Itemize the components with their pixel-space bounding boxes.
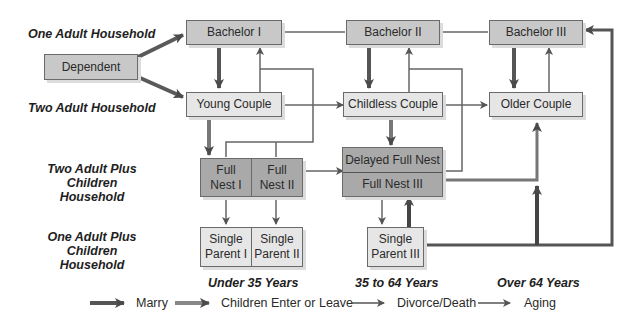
- delayed-full-nest-label: Delayed Full Nest: [345, 153, 440, 168]
- single-parent-3-line2: Parent III: [371, 247, 420, 262]
- single-parent-3-line1: Single: [379, 232, 412, 247]
- node-young-couple: Young Couple: [186, 92, 282, 117]
- node-delayed-full-nest: Delayed Full Nest Full Nest III: [342, 147, 443, 197]
- lane-two-adult-household: Two Adult Household: [28, 101, 156, 115]
- lane-one-adult-children-line2: Children Household: [33, 244, 151, 272]
- full-nest-1-line1: Full: [216, 163, 235, 178]
- single-parent-1-line1: Single: [209, 232, 242, 247]
- lane-one-adult-household: One Adult Household: [28, 27, 155, 41]
- single-parent-2-line1: Single: [260, 232, 293, 247]
- node-full-nest-1: Full Nest I: [200, 158, 252, 197]
- legend-marry: Marry: [136, 296, 168, 310]
- node-dependent: Dependent: [44, 54, 138, 80]
- node-older-couple: Older Couple: [489, 92, 583, 117]
- node-full-nest-2: Full Nest II: [251, 158, 303, 197]
- single-parent-1-line2: Parent I: [205, 247, 247, 262]
- full-nest-1-line2: Nest I: [210, 178, 241, 193]
- full-nest-2-line1: Full: [267, 163, 286, 178]
- node-bachelor-2: Bachelor II: [346, 20, 440, 45]
- node-single-parent-3: Single Parent III: [367, 227, 424, 267]
- full-nest-2-line2: Nest II: [260, 178, 295, 193]
- node-bachelor-3: Bachelor III: [489, 20, 583, 45]
- node-childless-couple: Childless Couple: [343, 92, 443, 117]
- legend-children-enter-leave: Children Enter or Leave: [221, 296, 353, 310]
- delayed-full-nest-divider: [343, 172, 442, 173]
- age-under-35: Under 35 Years: [208, 276, 298, 290]
- single-parent-2-line2: Parent II: [254, 247, 299, 262]
- lane-two-adult-children: Two Adult Plus Children Household: [33, 162, 151, 204]
- lane-one-adult-children-line1: One Adult Plus: [33, 230, 151, 244]
- legend-divorce-death: Divorce/Death: [397, 296, 476, 310]
- node-single-parent-2: Single Parent II: [251, 227, 303, 267]
- node-bachelor-1: Bachelor I: [186, 20, 282, 45]
- full-nest-3-label: Full Nest III: [362, 177, 423, 192]
- age-over-64: Over 64 Years: [497, 276, 580, 290]
- lane-one-adult-children: One Adult Plus Children Household: [33, 230, 151, 272]
- lane-two-adult-children-line1: Two Adult Plus: [33, 162, 151, 176]
- age-35-to-64: 35 to 64 Years: [355, 276, 438, 290]
- legend-aging: Aging: [524, 296, 556, 310]
- lane-two-adult-children-line2: Children Household: [33, 176, 151, 204]
- node-single-parent-1: Single Parent I: [200, 227, 252, 267]
